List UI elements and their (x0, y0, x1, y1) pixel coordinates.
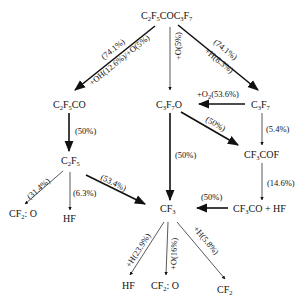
node-c2f5co: C2F5CO (53, 99, 86, 111)
node-cf2o-bottom: CF2: O (151, 280, 179, 292)
edge-label-c2f5-hf: (6.3%) (73, 188, 97, 198)
node-cf2o-left: CF2: O (9, 208, 37, 220)
node-cf3co-hf: CF3CO + HF (233, 203, 286, 215)
edge-label-root-c3f7o: +O(5%) (173, 32, 183, 60)
node-c2f5coc3f7: C2F5COC3F7 (141, 10, 193, 22)
reaction-pathway-diagram: C2F5COC3F7 C2F5CO C3F7O C3F7 C2F5 CF3COF… (0, 0, 306, 299)
edge-label-cf3cohf-cf3: (50%) (201, 192, 222, 202)
edge-label-c2f5-cf2o: (31.4%) (25, 175, 52, 201)
edge-label-c3f7o-cf3: (50%) (175, 150, 196, 160)
node-cf2-bottom: CF2 (217, 284, 232, 296)
edge-label-c3f7-c3f7o: +O2(53.6%) (197, 89, 239, 100)
edge-label-cf3-cf2: +H(5.8%) (191, 224, 221, 257)
node-c2f5: C2F5 (61, 155, 80, 167)
node-hf-bottom: HF (122, 280, 135, 291)
edge-label-cf3-cf2o: +O(16%) (168, 237, 179, 270)
node-cf3cof: CF3COF (244, 149, 279, 161)
node-c3f7o: C3F7O (156, 99, 182, 111)
edge-label-cf3-hf: +H(23.9%) (123, 231, 152, 269)
edge-label-c3f7o-cf3cof: (50%) (204, 114, 228, 133)
node-cf3: CF3 (160, 203, 175, 215)
edge-label-cf3cof-cf3cohf: (14.6%) (267, 178, 295, 188)
edge-label-c2f5co-c2f5: (50%) (75, 126, 96, 136)
node-c3f7: C3F7 (251, 99, 270, 111)
node-hf-left: HF (63, 213, 76, 224)
edge-label-c2f5-cf3: (53.4%) (99, 172, 128, 194)
edge-label-c3f7-cf3cof: (5.4%) (266, 124, 290, 134)
